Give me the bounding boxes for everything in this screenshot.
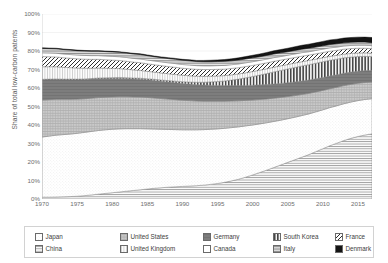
x-axis-tick-label: 2000 (233, 200, 273, 207)
legend-swatch-icon (273, 245, 281, 253)
area-series-group (42, 37, 372, 199)
legend-swatch-icon (335, 233, 343, 241)
y-axis-tick-label: 80% (4, 47, 40, 54)
y-axis-tick-label: 70% (4, 66, 40, 73)
legend-swatch-icon (203, 245, 211, 253)
chart-legend: JapanUnited StatesGermanySouth KoreaFran… (24, 226, 374, 258)
legend-item-france[interactable]: France (335, 231, 365, 243)
legend-label: Canada (214, 245, 236, 253)
legend-swatch-icon (120, 245, 128, 253)
legend-label: Italy (284, 245, 296, 253)
y-axis-tick-label: 40% (4, 121, 40, 128)
legend-swatch-icon (35, 233, 43, 241)
x-axis-tick-label: 1995 (198, 200, 238, 207)
y-axis-tick-label: 10% (4, 177, 40, 184)
legend-item-south-korea[interactable]: South Korea (273, 231, 319, 243)
y-axis-tick-label: 90% (4, 29, 40, 36)
x-axis-tick-label: 1980 (92, 200, 132, 207)
legend-label: South Korea (284, 233, 319, 241)
legend-item-united-states[interactable]: United States (120, 231, 168, 243)
legend-item-united-kingdom[interactable]: United Kingdom (120, 243, 175, 255)
legend-label: China (46, 245, 62, 253)
legend-label: Germany (214, 233, 240, 241)
legend-swatch-icon (203, 233, 211, 241)
y-axis-tick-label: 30% (4, 140, 40, 147)
y-axis-tick-label: 100% (4, 10, 40, 17)
stacked-area-chart: Share of total low-carbon patents 0%10%2… (0, 0, 388, 263)
x-axis-tick-label: 1990 (162, 200, 202, 207)
legend-item-italy[interactable]: Italy (273, 243, 295, 255)
plot-svg (42, 14, 372, 199)
x-axis-tick-label: 1970 (22, 200, 62, 207)
y-axis-tick-label: 20% (4, 158, 40, 165)
y-axis-tick-label: 60% (4, 84, 40, 91)
x-axis-tick-label: 2005 (268, 200, 308, 207)
legend-row: ChinaUnited KingdomCanadaItalyDenmark (25, 243, 373, 255)
legend-item-germany[interactable]: Germany (203, 231, 239, 243)
y-axis-tick-labels: 0%10%20%30%40%50%60%70%80%90%100% (0, 0, 40, 199)
legend-swatch-icon (120, 233, 128, 241)
x-axis-tick-label: 1985 (127, 200, 167, 207)
legend-swatch-icon (335, 245, 343, 253)
legend-label: United Kingdom (131, 245, 176, 253)
x-axis-tick-labels: 1970197519801985199019952000200520102015 (42, 200, 372, 212)
legend-swatch-icon (35, 245, 43, 253)
plot-area (42, 14, 372, 199)
legend-item-china[interactable]: China (35, 243, 62, 255)
legend-label: Denmark (346, 245, 372, 253)
legend-item-japan[interactable]: Japan (35, 231, 63, 243)
y-axis-tick-label: 50% (4, 103, 40, 110)
x-axis-tick-label: 1975 (57, 200, 97, 207)
x-axis-tick-label: 2015 (338, 200, 378, 207)
legend-label: France (346, 233, 366, 241)
legend-label: Japan (46, 233, 63, 241)
legend-label: United States (131, 233, 169, 241)
x-axis-tick-label: 2010 (303, 200, 343, 207)
legend-swatch-icon (273, 233, 281, 241)
legend-item-denmark[interactable]: Denmark (335, 243, 371, 255)
legend-item-canada[interactable]: Canada (203, 243, 236, 255)
legend-row: JapanUnited StatesGermanySouth KoreaFran… (25, 231, 373, 243)
